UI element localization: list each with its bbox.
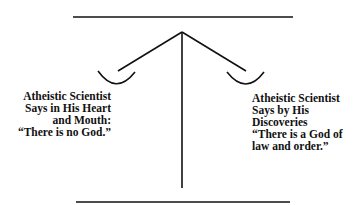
right-label-line: Says by His [252,104,343,116]
right-pan-label: Atheistic Scientist Says by His Discover… [252,92,343,152]
right-label-line: “There is a God of [252,128,343,140]
left-label-line: Says in His Heart [18,102,111,114]
left-pan-label: Atheistic Scientist Says in His Heart an… [18,90,111,138]
right-label-line: law and order.” [252,140,343,152]
left-label-line: Atheistic Scientist [18,90,111,102]
left-label-line: and Mouth: [18,114,111,126]
left-label-line: “There is no God.” [18,126,111,138]
balance-scale-diagram: Atheistic Scientist Says in His Heart an… [0,0,363,205]
left-pan-icon [98,71,135,84]
right-label-line: Discoveries [252,116,343,128]
right-pan-icon [227,72,264,84]
right-beam [182,32,246,71]
right-label-line: Atheistic Scientist [252,92,343,104]
left-beam [118,32,182,71]
